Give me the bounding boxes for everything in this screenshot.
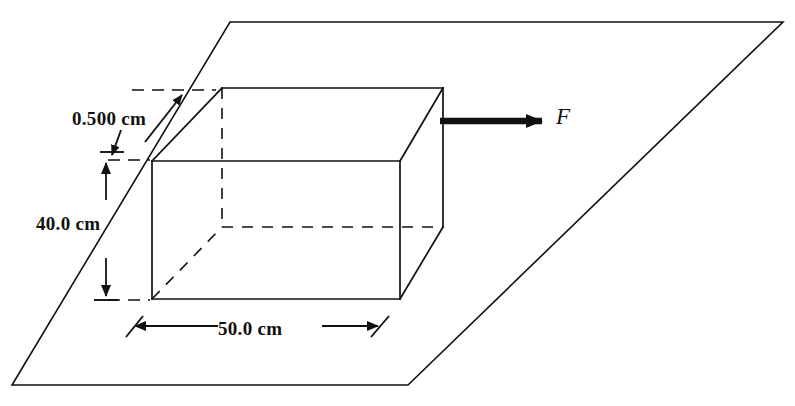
- box-top-left-slant-edge: [152, 88, 222, 161]
- height-dimension-group: [94, 163, 150, 300]
- box-hidden-bottom-left-slant-edge: [152, 227, 222, 299]
- height-dimension-label: 40.0 cm: [36, 213, 100, 235]
- physics-figure: 0.500 cm 40.0 cm 50.0 cm F: [0, 0, 795, 406]
- box-solid-edges: [152, 88, 443, 299]
- inclined-plane: [12, 22, 783, 385]
- box-top-right-slant-edge: [400, 88, 443, 161]
- width-dimension-label: 50.0 cm: [218, 318, 282, 340]
- thickness-dimension-label: 0.500 cm: [72, 108, 146, 130]
- figure-canvas: [0, 0, 795, 406]
- box-bottom-right-slant-edge: [400, 227, 443, 299]
- force-vector-label: F: [556, 104, 570, 130]
